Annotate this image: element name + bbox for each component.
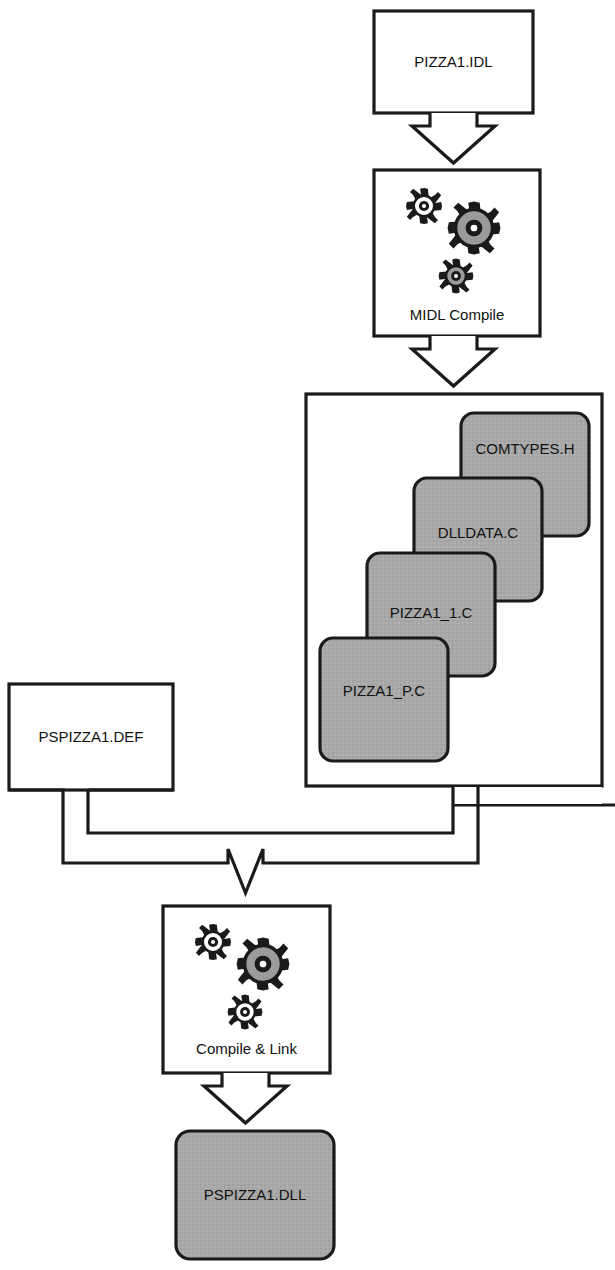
merge-inner-contour — [88, 790, 453, 833]
label-pspizza1-def: PSPIZZA1.DEF — [9, 728, 173, 745]
label-pspizza1-dll: PSPIZZA1.DLL — [176, 1186, 334, 1203]
label-midl-compile: MIDL Compile — [374, 306, 540, 323]
label-compile-and-link: Compile & Link — [163, 1040, 330, 1057]
label-pizza1-1-c: PIZZA1_1.C — [367, 604, 495, 621]
build-pipeline-diagram — [0, 0, 615, 1270]
card-pizza1-p-c — [320, 638, 448, 761]
label-pizza1-p-c: PIZZA1_P.C — [320, 682, 448, 699]
arrow-idl-to-midl — [412, 113, 495, 163]
arrow-midl-to-group — [412, 336, 495, 386]
arrow-complink-to-dll — [204, 1073, 287, 1123]
label-comtypes-h: COMTYPES.H — [461, 440, 589, 457]
merge-mask — [454, 787, 602, 804]
label-pizza1-idl: PIZZA1.IDL — [374, 53, 533, 70]
merge-leg-def — [9, 790, 478, 893]
label-dlldata-c: DLLDATA.C — [414, 524, 542, 541]
